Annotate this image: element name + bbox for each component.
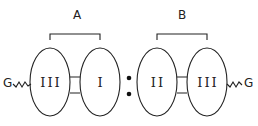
subunit-b-ii-label: II bbox=[151, 75, 165, 90]
group-a-bracket bbox=[50, 34, 100, 40]
subunit-b-iii-label: III bbox=[197, 75, 218, 90]
right-wavy-link-icon bbox=[227, 82, 242, 87]
separator-dot-top bbox=[127, 76, 132, 81]
group-b-bracket bbox=[157, 34, 207, 40]
separator-dot-bottom bbox=[127, 92, 132, 97]
dimer-diagram: A B G III I II III G bbox=[0, 0, 258, 126]
left-terminal-label: G bbox=[3, 76, 12, 90]
subunit-a-iii-label: III bbox=[40, 75, 61, 90]
right-terminal-label: G bbox=[244, 76, 253, 90]
connector-b bbox=[177, 77, 187, 93]
group-a-label: A bbox=[73, 8, 82, 22]
left-wavy-link-icon bbox=[13, 82, 31, 87]
subunit-a-i-label: I bbox=[97, 75, 104, 90]
group-b-label: B bbox=[178, 8, 186, 22]
diagram-canvas: A B G III I II III G bbox=[0, 0, 258, 126]
connector-a bbox=[70, 77, 80, 93]
